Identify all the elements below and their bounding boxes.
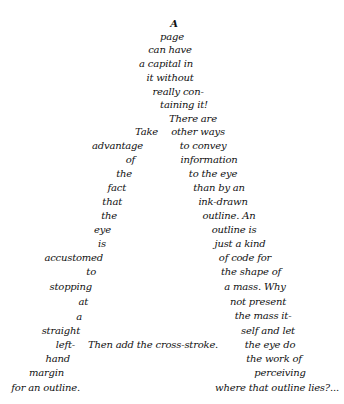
cross-stroke: Then add the cross-stroke. bbox=[88, 339, 218, 351]
text-line: at bbox=[78, 296, 88, 308]
text-line: than by an bbox=[193, 182, 245, 194]
text-line: taining it! bbox=[160, 99, 208, 111]
text-line: it without bbox=[146, 72, 193, 84]
text-line: margin bbox=[29, 367, 64, 379]
text-line: where that outline lies?... bbox=[215, 382, 339, 394]
text-line: information bbox=[180, 154, 237, 166]
text-line: just a kind bbox=[215, 238, 266, 250]
text-line: of bbox=[126, 154, 135, 166]
text-line: the eye do bbox=[245, 339, 296, 351]
text-line: can have bbox=[148, 44, 192, 56]
text-line: the bbox=[101, 210, 117, 222]
text-line: hand bbox=[46, 353, 70, 365]
text-line: the bbox=[116, 168, 132, 180]
text-line: a mass. Why bbox=[224, 281, 285, 293]
apex-letter: A bbox=[170, 18, 178, 30]
text-line: not present bbox=[230, 296, 286, 308]
text-line: left- bbox=[56, 339, 75, 351]
text-line: other ways bbox=[171, 126, 225, 138]
text-line: the work of bbox=[246, 353, 302, 365]
text-line: really con- bbox=[152, 86, 203, 98]
text-line: There are bbox=[169, 113, 217, 125]
text-line: straight bbox=[42, 325, 80, 337]
text-line: stopping bbox=[50, 281, 92, 293]
text-line: advantage bbox=[92, 140, 143, 152]
text-line: self and let bbox=[241, 325, 295, 337]
text-line: eye bbox=[94, 224, 111, 236]
text-line: to the eye bbox=[189, 168, 237, 180]
text-line: the mass it- bbox=[235, 310, 292, 322]
text-line: is bbox=[98, 238, 106, 250]
text-line: perceiving bbox=[254, 367, 306, 379]
text-line: for an outline. bbox=[11, 382, 80, 394]
text-line: outline. An bbox=[202, 210, 255, 222]
text-line: page bbox=[160, 31, 184, 43]
text-line: of code for bbox=[219, 252, 271, 264]
text-line: ink-drawn bbox=[198, 196, 247, 208]
text-line: outline is bbox=[212, 224, 257, 236]
text-line: fact bbox=[108, 182, 126, 194]
text-line: Take bbox=[135, 126, 158, 138]
text-line: that bbox=[102, 196, 122, 208]
text-line: to convey bbox=[180, 140, 227, 152]
text-line: accustomed bbox=[44, 252, 103, 264]
text-line: a capital in bbox=[139, 58, 193, 70]
text-line: to bbox=[86, 266, 96, 278]
text-line: a bbox=[76, 311, 82, 323]
text-line: the shape of bbox=[221, 266, 281, 278]
